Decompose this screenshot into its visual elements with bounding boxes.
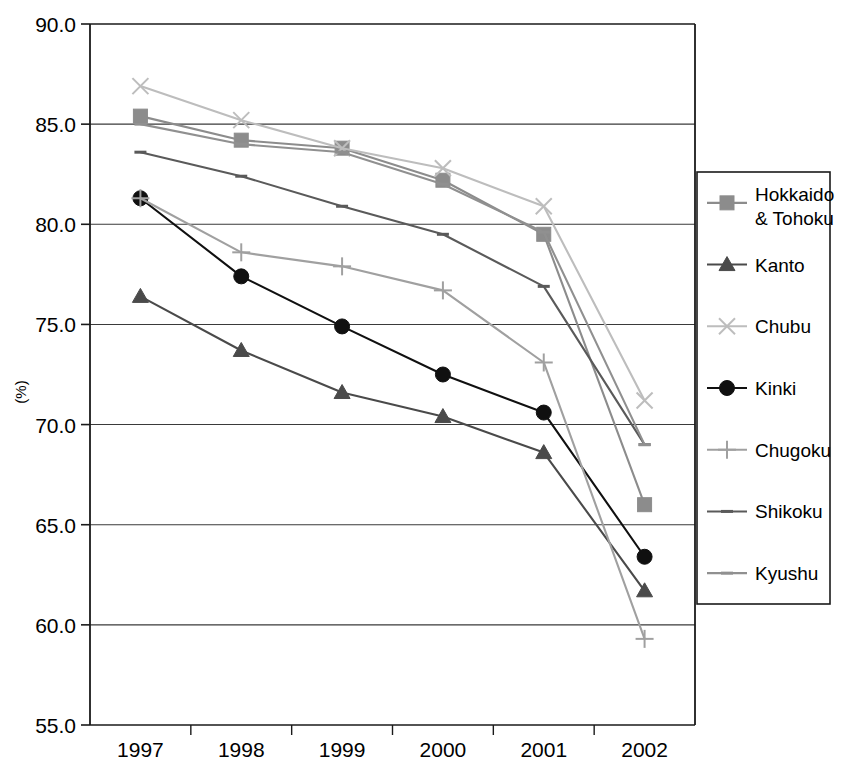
series-chugoku [131,189,653,648]
series-shikoku [134,152,650,444]
y-tick-label: 80.0 [35,213,76,236]
legend-label: & Tohoku [755,208,834,229]
series-marker-square [720,196,734,210]
y-axis-group: 90.085.080.075.070.065.060.055.0 [35,13,90,737]
y-axis-title: (%) [12,380,29,403]
series-kyushu [134,124,650,444]
legend-label: Kinki [755,378,796,399]
series-marker-triangle [233,342,249,356]
grid-group [90,24,695,725]
series-line [140,152,644,444]
legend-label: Kanto [755,255,805,276]
series-marker-circle [536,405,551,420]
legend-label: Hokkaido [755,184,834,205]
series-marker-circle [335,319,350,334]
series-line [140,116,644,505]
y-tick-label: 65.0 [35,514,76,537]
series-kinki [133,191,652,565]
series-marker-plus [535,353,553,371]
series-marker-circle [234,269,249,284]
series-marker-plus [333,257,351,275]
series-group [131,78,653,648]
series-marker-circle [720,381,735,396]
series-marker-square [638,498,652,512]
x-tick-label: 2000 [420,738,467,761]
y-tick-label: 70.0 [35,414,76,437]
series-line [140,198,644,639]
y-tick-label: 85.0 [35,113,76,136]
series-marker-plus [434,281,452,299]
series-marker-circle [637,549,652,564]
x-tick-label: 2002 [621,738,668,761]
series-chubu [132,78,652,408]
legend-label: Kyushu [755,563,818,584]
series-marker-square [133,109,147,123]
y-tick-label: 75.0 [35,313,76,336]
y-tick-label: 90.0 [35,13,76,36]
legend-label: Chubu [755,316,811,337]
x-tick-label: 2001 [520,738,567,761]
series-line [140,296,644,590]
legend-label: Chugoku [755,440,831,461]
series-marker-cross [132,78,148,94]
x-tick-label: 1998 [218,738,265,761]
series-marker-triangle [132,288,148,302]
series-marker-plus [232,243,250,261]
chart-canvas: 90.085.080.075.070.065.060.055.0(%)19971… [0,0,842,779]
series-marker-cross [536,198,552,214]
series-line [140,198,644,557]
x-tick-label: 1999 [319,738,366,761]
legend: Hokkaido& TohokuKantoChubuKinkiChugokuSh… [697,172,834,604]
x-axis-group: 199719981999200020012002 [117,725,668,761]
y-tick-label: 60.0 [35,614,76,637]
series-marker-cross [233,112,249,128]
y-tick-label: 55.0 [35,714,76,737]
legend-label: Shikoku [755,501,823,522]
line-chart-figure: 90.085.080.075.070.065.060.055.0(%)19971… [0,0,842,779]
x-tick-label: 1997 [117,738,164,761]
series-marker-plus [131,189,149,207]
series-marker-triangle [334,385,350,399]
series-marker-plus [636,630,654,648]
series-line [140,124,644,444]
series-marker-cross [637,393,653,409]
series-marker-circle [435,367,450,382]
